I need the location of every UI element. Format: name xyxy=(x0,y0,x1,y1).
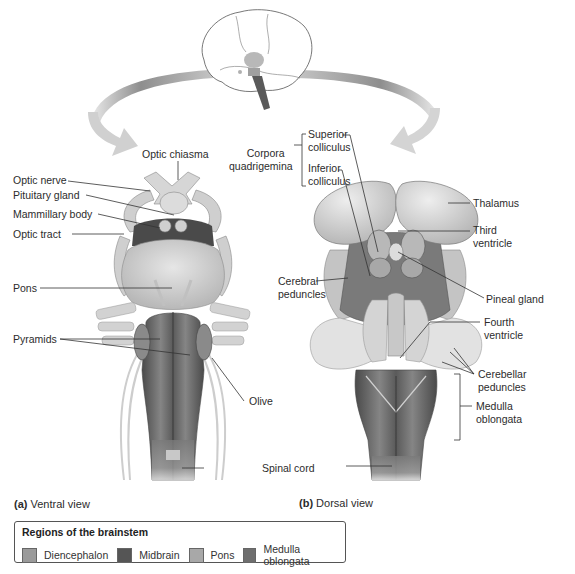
swatch-pons-icon xyxy=(189,548,204,563)
label-fourth-ventricle-line1: Fourth xyxy=(484,316,523,329)
legend-title: Regions of the brainstem xyxy=(22,526,148,538)
brainstem-figure: Optic nerve Optic chiasma Pituitary glan… xyxy=(0,0,575,574)
label-cerebral-line2: peduncles xyxy=(278,288,326,301)
swatch-medulla-icon xyxy=(243,548,256,563)
ventral-view-illustration xyxy=(95,172,250,480)
label-cerebral-peduncles: Cerebral peduncles xyxy=(278,275,326,301)
legend-item-diencephalon: Diencephalon xyxy=(22,548,108,563)
label-corpora-quadrigemina: Corpora quadrigemina xyxy=(229,147,293,173)
label-pyramids: Pyramids xyxy=(13,333,57,346)
label-pineal-gland: Pineal gland xyxy=(486,293,544,306)
label-superior-line2: colliculus xyxy=(308,141,351,154)
caption-letter-b: (b) xyxy=(299,497,313,509)
legend-box: Regions of the brainstem Diencephalon Mi… xyxy=(14,521,346,563)
curved-arrow-left-icon xyxy=(88,70,214,156)
swatch-diencephalon-icon xyxy=(22,548,37,563)
swatch-midbrain-icon xyxy=(117,548,132,563)
label-superior-line1: Superior xyxy=(308,128,351,141)
label-cerebellar-peduncles: Cerebellar peduncles xyxy=(478,368,526,394)
caption-name-ventral: Ventral view xyxy=(31,498,90,510)
brain-sagittal-icon xyxy=(202,10,312,110)
label-pons: Pons xyxy=(13,282,37,295)
label-optic-tract: Optic tract xyxy=(13,228,61,241)
label-cerebellar-line1: Cerebellar xyxy=(478,368,526,381)
caption-letter-a: (a) xyxy=(14,498,27,510)
caption-dorsal-view: (b) Dorsal view xyxy=(299,497,373,509)
legend-label: Medulla oblongata xyxy=(263,543,336,567)
legend-label: Diencephalon xyxy=(44,549,108,561)
label-fourth-ventricle-line2: ventricle xyxy=(484,329,523,342)
legend-label: Midbrain xyxy=(139,549,179,561)
dorsal-view-illustration xyxy=(310,181,482,480)
label-optic-chiasma: Optic chiasma xyxy=(142,148,209,161)
label-corpora-line1: Corpora xyxy=(229,147,293,160)
label-fourth-ventricle: Fourth ventricle xyxy=(484,316,523,342)
label-cerebellar-line2: peduncles xyxy=(478,381,526,394)
legend-item-pons: Pons xyxy=(189,548,235,563)
label-inferior-line1: Inferior xyxy=(308,162,351,175)
label-thalamus: Thalamus xyxy=(473,197,519,210)
legend-items: Diencephalon Midbrain Pons Medulla oblon… xyxy=(22,543,345,567)
label-medulla-line1: Medulla xyxy=(476,400,522,413)
label-third-ventricle: Third ventricle xyxy=(473,224,512,250)
label-superior-colliculus: Superior colliculus xyxy=(308,128,351,154)
label-cerebral-line1: Cerebral xyxy=(278,275,326,288)
legend-item-medulla-oblongata: Medulla oblongata xyxy=(243,543,336,567)
label-third-ventricle-line1: Third xyxy=(473,224,512,237)
label-mammillary-body: Mammillary body xyxy=(13,208,92,221)
label-medulla-oblongata: Medulla oblongata xyxy=(476,400,522,426)
label-third-ventricle-line2: ventricle xyxy=(473,237,512,250)
caption-name-dorsal: Dorsal view xyxy=(316,497,373,509)
label-olive: Olive xyxy=(249,395,273,408)
label-spinal-cord: Spinal cord xyxy=(262,462,315,475)
label-inferior-colliculus: Inferior colliculus xyxy=(308,162,351,188)
label-inferior-line2: colliculus xyxy=(308,175,351,188)
label-optic-nerve: Optic nerve xyxy=(13,174,67,187)
label-corpora-line2: quadrigemina xyxy=(229,160,293,173)
legend-item-midbrain: Midbrain xyxy=(117,548,179,563)
caption-ventral-view: (a) Ventral view xyxy=(14,498,90,510)
legend-label: Pons xyxy=(211,549,235,561)
label-medulla-line2: oblongata xyxy=(476,413,522,426)
label-pituitary-gland: Pituitary gland xyxy=(13,189,80,202)
